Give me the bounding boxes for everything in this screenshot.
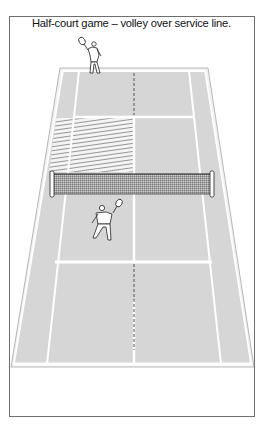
tennis-court-diagram [0,0,263,426]
net-post-left [50,171,54,197]
tennis-net [50,171,214,197]
net-post-right [210,171,214,197]
hatched-zone [49,118,134,172]
far-player-icon [77,36,101,73]
